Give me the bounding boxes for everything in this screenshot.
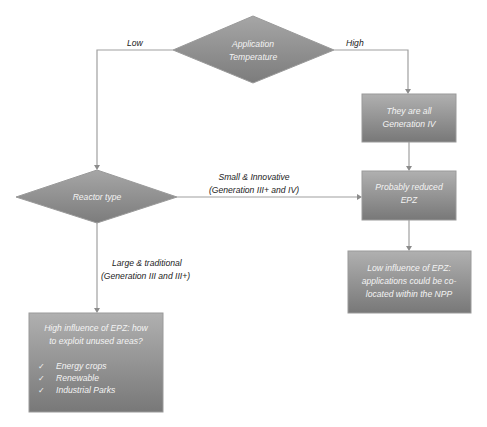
node-high-influence: High influence of EPZ: how to exploit un…: [29, 313, 163, 412]
flowchart-diagram: Low High Small & Innovative (Generation …: [0, 0, 487, 427]
checklist-item: Industrial Parks: [56, 385, 116, 395]
check-icon: ✓: [38, 386, 45, 395]
edge-label-high: High: [346, 38, 364, 48]
node-application-temperature-line2: Temperature: [229, 52, 278, 62]
node-generation-iv: They are all Generation IV: [362, 94, 456, 142]
arrowhead-icon: [406, 246, 412, 251]
edge-high: [334, 50, 411, 94]
node-reduced-epz-line2: EPZ: [401, 195, 418, 205]
node-reduced-epz-line1: Probably reduced: [375, 182, 443, 192]
edge-low: [94, 50, 173, 170]
node-low-influence-line3: located within the NPP: [366, 289, 453, 299]
checklist-item: Energy crops: [56, 361, 107, 371]
arrowhead-icon: [405, 89, 411, 94]
node-generation-iv-line1: They are all: [387, 106, 433, 116]
node-high-influence-line1: High influence of EPZ: how: [44, 323, 148, 333]
edge-label-large-traditional-line1: Large & traditional: [112, 258, 183, 268]
arrowhead-icon: [357, 194, 362, 200]
check-icon: ✓: [38, 374, 45, 383]
node-application-temperature-line1: Application: [231, 39, 274, 49]
arrowhead-icon: [94, 308, 100, 313]
node-high-influence-line2: to exploit unused areas?: [49, 336, 143, 346]
edge-epz-to-low-influence: [406, 220, 412, 251]
node-reduced-epz: Probably reduced EPZ: [362, 171, 456, 220]
node-reactor-type-label: Reactor type: [73, 192, 122, 202]
arrowhead-icon: [406, 166, 412, 171]
node-generation-iv-line2: Generation IV: [382, 119, 436, 129]
node-application-temperature: Application Temperature: [173, 16, 334, 83]
arrowhead-icon: [94, 165, 100, 170]
edge-label-large-traditional-line2: (Generation III and III+): [101, 271, 190, 281]
node-low-influence-line1: Low influence of EPZ:: [367, 263, 451, 273]
node-low-influence-line2: applications could be co-: [362, 276, 457, 286]
edge-label-small-innovative-line1: Small & Innovative: [218, 172, 289, 182]
edge-label-small-innovative-line2: (Generation III+ and IV): [209, 185, 299, 195]
node-reactor-type: Reactor type: [16, 170, 177, 223]
node-low-influence: Low influence of EPZ: applications could…: [348, 251, 471, 313]
checklist-item: Renewable: [56, 373, 99, 383]
check-icon: ✓: [38, 362, 45, 371]
edge-label-low: Low: [127, 38, 144, 48]
edge-large-traditional: [94, 223, 100, 313]
edge-gen-iv-to-epz: [406, 142, 412, 171]
